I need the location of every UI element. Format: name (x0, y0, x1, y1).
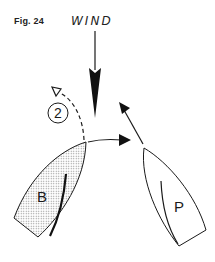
wind-arrow-icon (89, 31, 101, 118)
boat-b-course-arrow-icon (88, 134, 131, 146)
boat-b-label: B (37, 188, 47, 205)
position-2-text: 2 (54, 105, 62, 121)
figure-canvas: Fig. 24 WIND 2 B (0, 0, 215, 262)
diagram-svg: 2 B P (0, 0, 215, 262)
boat-p-label: P (174, 198, 184, 215)
position-2-marker: 2 (48, 103, 68, 123)
boat-p: P (143, 148, 206, 246)
boat-b: B (14, 142, 86, 237)
